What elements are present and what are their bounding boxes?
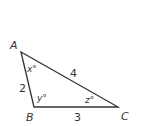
side-label-bc: 3 (74, 111, 81, 124)
side-label-ab: 2 (19, 82, 26, 95)
angle-label-z: z° (84, 95, 94, 105)
side-label-ac: 4 (70, 67, 77, 80)
vertex-label-a: A (9, 39, 18, 52)
triangle-diagram: A B C 2 4 3 x° y° z° (0, 0, 142, 126)
vertex-label-c: C (121, 110, 129, 123)
angle-label-y: y° (36, 93, 47, 103)
angle-label-x: x° (26, 64, 37, 74)
vertex-label-b: B (26, 111, 34, 124)
